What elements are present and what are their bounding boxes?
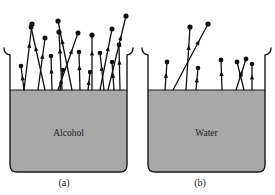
molecule-dot <box>49 54 54 59</box>
molecule-dot <box>235 60 240 65</box>
molecule-dot <box>187 24 192 29</box>
panel-b-caption: (b) <box>180 177 220 188</box>
molecule-dot <box>165 60 170 65</box>
molecule-dot <box>196 66 201 71</box>
liquid-label: Alcohol <box>53 128 84 138</box>
molecule-dot <box>110 27 115 32</box>
molecule-dot <box>19 64 24 69</box>
molecule-dot <box>219 58 224 63</box>
molecule-dot <box>250 62 255 67</box>
molecule-dot <box>244 57 249 62</box>
molecule-dot <box>29 25 34 30</box>
evaporation-figure: Alcohol Water <box>0 0 275 195</box>
molecule-dot <box>98 51 103 56</box>
molecule-dot <box>43 36 48 41</box>
molecule-dot <box>205 21 210 26</box>
molecule-dot <box>55 18 60 23</box>
molecule-dot <box>117 43 122 48</box>
molecule-dot <box>77 50 82 55</box>
panel-a-caption: (a) <box>44 177 84 188</box>
molecule-dot <box>89 32 94 37</box>
molecule-dot <box>123 13 128 18</box>
molecule-dot <box>76 31 81 36</box>
liquid-label: Water <box>195 128 218 138</box>
molecule-dot <box>110 60 115 65</box>
